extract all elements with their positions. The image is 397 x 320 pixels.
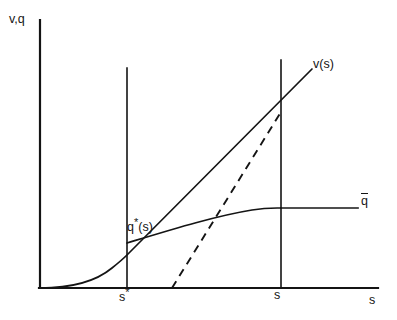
s-bar-tick-label: s — [274, 289, 280, 302]
tangent-chord-dashed-line — [172, 112, 281, 288]
v-curve-label: v(s) — [313, 58, 334, 71]
v-curve — [40, 69, 312, 288]
q-curve-label-base: q — [127, 220, 134, 234]
q-bar-level-label: q — [361, 195, 368, 208]
q-curve-label: q*(s) — [127, 221, 153, 234]
figure-canvas: v,q s v(s) q*(s) s* s q — [0, 0, 397, 320]
reference-lines-group — [127, 60, 281, 288]
s-star-tick-star: * — [125, 286, 129, 298]
q-curve-label-suffix: (s) — [138, 220, 153, 234]
x-axis-label: s — [369, 294, 375, 307]
y-axis-label: v,q — [9, 13, 25, 26]
plot-area — [0, 0, 397, 320]
q-bar-level-base: q — [361, 195, 368, 208]
s-bar-tick-base: s — [274, 289, 280, 302]
s-star-tick-label: s* — [119, 291, 130, 304]
